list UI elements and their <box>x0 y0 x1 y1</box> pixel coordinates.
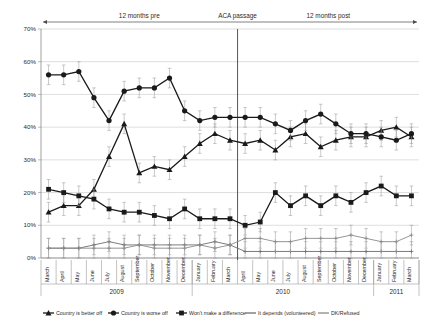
data-point <box>348 131 353 136</box>
x-axis-month-label: April <box>240 271 246 282</box>
data-point <box>243 115 248 120</box>
data-point <box>137 210 142 215</box>
timeline-arrowhead-right <box>413 20 417 24</box>
x-axis-month-label: January <box>376 263 382 282</box>
legend-item[interactable]: Won't make a difference <box>176 310 246 316</box>
y-axis-label: 50% <box>24 91 37 98</box>
data-point <box>349 233 353 237</box>
x-axis-month-label: May <box>255 272 261 282</box>
chart-canvas: 12 months preACA passage12 months post0%… <box>0 0 425 330</box>
series-won-t-make-a-difference <box>46 176 414 235</box>
x-axis-month-label: February <box>210 260 216 282</box>
survey-trend-chart: 12 months preACA passage12 months post0%… <box>0 0 425 330</box>
data-point <box>243 223 248 228</box>
data-point <box>152 85 157 90</box>
series-dk-refused <box>47 225 414 258</box>
legend-item[interactable]: DK/Refused <box>318 310 360 316</box>
data-point <box>61 190 66 195</box>
data-point <box>363 131 368 136</box>
data-point <box>137 243 141 247</box>
x-axis-month-label: October <box>149 263 155 282</box>
data-point <box>273 240 277 244</box>
data-point <box>334 249 338 253</box>
legend-item[interactable]: It depends (volunteered) <box>245 310 316 316</box>
x-axis-year-label: 2009 <box>109 288 124 295</box>
data-point <box>409 233 413 237</box>
data-point <box>122 210 127 215</box>
data-point <box>257 137 263 142</box>
data-point <box>288 203 293 208</box>
data-point <box>46 72 51 77</box>
data-point <box>258 220 263 225</box>
x-axis-month-label: February <box>391 260 397 282</box>
x-axis-month-label: December <box>180 257 186 282</box>
y-axis-label: 10% <box>24 221 37 228</box>
y-axis-label: 40% <box>24 123 37 130</box>
data-point <box>121 121 127 126</box>
x-axis-year-label: 2011 <box>389 288 403 295</box>
data-point <box>106 118 111 123</box>
data-point <box>304 236 308 240</box>
legend-label: Country is better off <box>56 310 103 316</box>
data-point <box>46 187 51 192</box>
legend-marker-swatch <box>111 310 116 315</box>
x-axis-month-label: July <box>285 272 291 282</box>
y-axis-label: 30% <box>24 156 37 163</box>
data-point <box>76 193 81 198</box>
x-axis-month-label: March <box>225 267 231 282</box>
data-point <box>198 243 202 247</box>
data-point <box>152 213 157 218</box>
data-point <box>303 118 308 123</box>
data-point <box>197 118 202 123</box>
x-axis-year-label: 2010 <box>276 288 291 295</box>
x-axis-month-label: July <box>104 272 110 282</box>
data-point <box>258 249 262 253</box>
x-axis-month-label: January <box>195 263 201 282</box>
data-point <box>303 131 309 136</box>
legend-item[interactable]: Country is worse off <box>108 310 168 316</box>
data-point <box>212 115 217 120</box>
data-point <box>197 141 203 146</box>
x-axis-month-label: September <box>134 255 140 282</box>
data-point <box>122 89 127 94</box>
legend-label: It depends (volunteered) <box>258 310 316 316</box>
data-point <box>228 216 233 221</box>
data-point <box>364 236 368 240</box>
y-axis-label: 60% <box>24 58 37 65</box>
series-country-is-better-off <box>46 114 415 222</box>
data-point <box>394 138 399 143</box>
data-point <box>258 236 262 240</box>
data-point <box>349 200 354 205</box>
data-point <box>379 240 383 244</box>
data-point <box>288 128 293 133</box>
data-point <box>76 69 81 74</box>
data-point <box>318 111 323 116</box>
data-point <box>106 154 112 159</box>
data-point <box>333 193 338 198</box>
data-point <box>318 203 323 208</box>
data-point <box>167 216 172 221</box>
data-point <box>333 121 338 126</box>
data-point <box>379 134 384 139</box>
annotation-aca-passage: ACA passage <box>218 12 257 20</box>
data-point <box>212 216 217 221</box>
data-point <box>91 95 96 100</box>
data-point <box>273 190 278 195</box>
x-axis-month-label: May <box>74 272 80 282</box>
data-point <box>288 240 292 244</box>
legend-label: DK/Refused <box>331 310 360 316</box>
series-line <box>49 72 412 141</box>
annotation-12-months-post: 12 months post <box>306 12 350 20</box>
data-point <box>212 131 218 136</box>
data-point <box>77 246 81 250</box>
x-axis-month-label: August <box>301 265 307 282</box>
data-point <box>228 243 232 247</box>
data-point <box>61 72 66 77</box>
data-point <box>152 246 156 250</box>
data-point <box>197 216 202 221</box>
annotation-12-months-pre: 12 months pre <box>119 12 160 20</box>
data-point <box>167 75 172 80</box>
legend-label: Country is worse off <box>121 310 168 316</box>
data-point <box>409 131 414 136</box>
legend-item[interactable]: Country is better off <box>43 310 103 316</box>
